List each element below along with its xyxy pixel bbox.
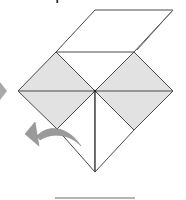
center-point bbox=[94, 90, 97, 93]
fold-arrow-label: fold flap to the left bbox=[0, 0, 149, 4]
top-flap bbox=[56, 10, 173, 52]
diagram-canvas: fold flap to the left bbox=[0, 0, 186, 200]
step-arrow-icon bbox=[0, 82, 7, 100]
